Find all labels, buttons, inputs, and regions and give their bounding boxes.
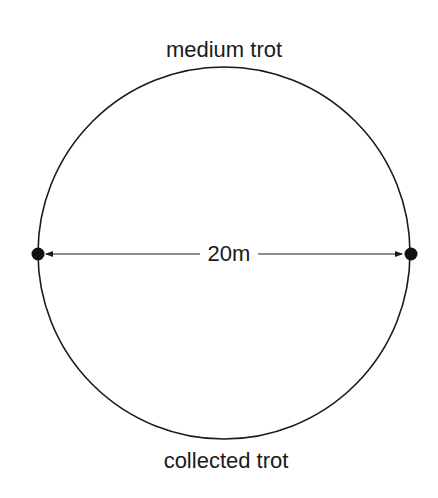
right-point-marker bbox=[405, 248, 418, 261]
diameter-label: 20m bbox=[205, 241, 254, 267]
bottom-label: collected trot bbox=[164, 448, 289, 474]
top-label: medium trot bbox=[166, 37, 282, 63]
left-point-marker bbox=[32, 248, 45, 261]
